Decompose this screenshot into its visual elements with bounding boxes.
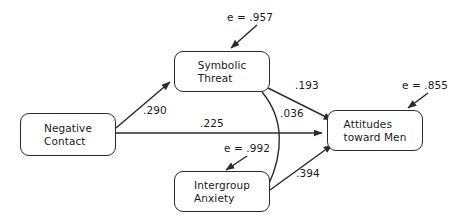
error-label-symbolic-threat: e = .957 [227,11,273,23]
path-label-symbolic-threat-to-attitudes: .193 [295,79,319,91]
path-label-negative-contact-to-symbolic-threat: .290 [143,104,167,116]
error-arrow-symbolic-threat [231,25,257,48]
node-symbolic-threat-line1: Symbolic [198,59,247,72]
path-label-symbolic-threat-intergroup-anxiety-covariance: .036 [280,107,304,119]
error-label-attitudes-toward-men: e = .855 [402,79,448,91]
error-arrow-intergroup-anxiety [226,156,247,170]
error-arrow-attitudes [408,93,428,108]
error-label-intergroup-anxiety: e = .992 [224,142,270,154]
node-intergroup-anxiety-line1: Intergroup [194,179,250,192]
node-negative-contact-line2: Contact [44,135,86,148]
path-label-negative-contact-to-attitudes: .225 [200,117,224,129]
path-label-intergroup-anxiety-to-attitudes: .394 [296,167,320,179]
node-attitudes-toward-men-line2: toward Men [344,131,407,144]
node-intergroup-anxiety[interactable]: Intergroup Anxiety [174,171,270,212]
node-intergroup-anxiety-line2: Anxiety [194,192,234,205]
node-attitudes-toward-men[interactable]: Attitudes toward Men [327,110,423,151]
path-diagram: Negative Contact Symbolic Threat Intergr… [0,0,463,220]
node-attitudes-toward-men-line1: Attitudes [344,118,392,131]
node-negative-contact-line1: Negative [44,122,92,135]
node-symbolic-threat-line2: Threat [198,72,233,85]
node-symbolic-threat[interactable]: Symbolic Threat [174,51,270,92]
node-negative-contact[interactable]: Negative Contact [20,113,116,156]
